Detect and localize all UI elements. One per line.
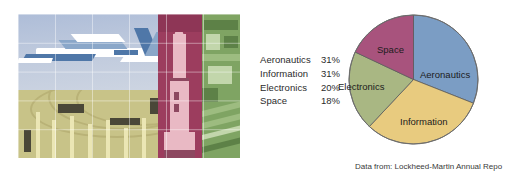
figure-canvas: Aeronautics 31% Information 31% Electron…: [0, 0, 510, 182]
figure-caption: Data from: Lockheed-Martin Annual Repo: [355, 162, 510, 171]
pie-chart: Aeronautics Information Electronics Spac…: [348, 14, 479, 145]
collage-grid-overlay: [18, 14, 240, 158]
legend-label-information: Information: [260, 67, 308, 81]
legend-percent-information: 31%: [321, 67, 340, 81]
pie-label-aeronautics: Aeronautics: [420, 69, 470, 80]
legend-row-electronics: Electronics 20%: [260, 81, 340, 95]
legend-percent-aeronautics: 31%: [321, 53, 340, 67]
pie-label-information: Information: [400, 116, 448, 127]
legend-row-information: Information 31%: [260, 67, 340, 81]
legend-row-space: Space 18%: [260, 94, 340, 108]
legend-percent-space: 18%: [321, 94, 340, 108]
pie-label-electronics: Electronics: [338, 81, 384, 92]
legend-row-aeronautics: Aeronautics 31%: [260, 53, 340, 67]
percentage-legend: Aeronautics 31% Information 31% Electron…: [260, 53, 340, 108]
legend-label-space: Space: [260, 94, 287, 108]
legend-label-electronics: Electronics: [260, 81, 307, 95]
photo-collage: [18, 14, 240, 158]
legend-label-aeronautics: Aeronautics: [260, 53, 311, 67]
pie-label-space: Space: [377, 44, 404, 55]
